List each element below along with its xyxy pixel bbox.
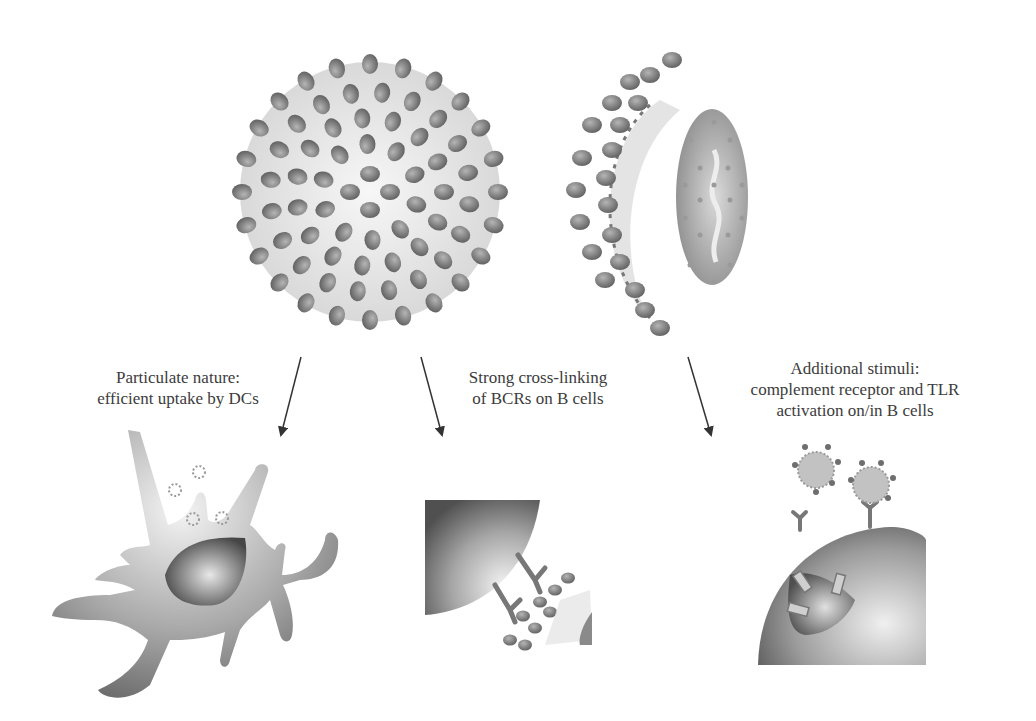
vlp-whole-illustration	[232, 54, 508, 330]
b-cell-crosslinking-illustration	[425, 500, 592, 651]
label-additional-stimuli: Additional stimuli: complement receptor …	[725, 358, 985, 421]
label-line: Strong cross-linking	[448, 367, 628, 388]
b-cell-stimulation-illustration	[758, 444, 926, 665]
dendritic-cell-illustration	[52, 430, 338, 698]
label-line: Additional stimuli:	[725, 358, 985, 379]
label-line: efficient uptake by DCs	[88, 388, 268, 409]
label-line: of BCRs on B cells	[448, 388, 628, 409]
arrow-to-bcr-crosslinking	[421, 357, 442, 435]
label-line: Particulate nature:	[88, 367, 268, 388]
label-line: complement receptor and TLR	[725, 379, 985, 400]
label-line: activation on/in B cells	[725, 400, 985, 421]
vlp-cross-section-illustration	[566, 52, 748, 336]
arrow-to-dendritic-cell	[281, 357, 301, 435]
arrow-to-b-cell-stimulation	[688, 357, 711, 435]
label-particulate-nature: Particulate nature: efficient uptake by …	[88, 367, 268, 409]
label-bcr-crosslinking: Strong cross-linking of BCRs on B cells	[448, 367, 628, 409]
